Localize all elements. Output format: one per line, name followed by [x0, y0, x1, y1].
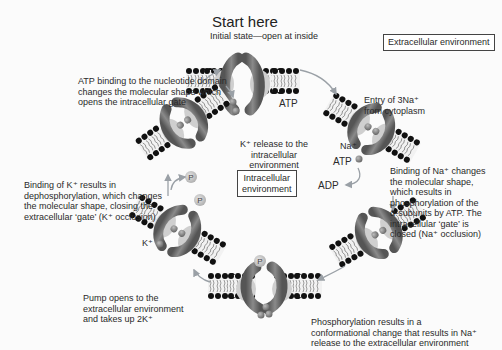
- svg-text:P: P: [188, 173, 193, 182]
- pump-bottom-open-outside: P: [208, 255, 322, 309]
- step-atp-binding: ATP binding to the nucleotide domainchan…: [78, 55, 227, 118]
- adp-label: ADP: [318, 181, 339, 192]
- step-na-entry: Entry of 3Na⁺from cytoplasm: [364, 74, 425, 127]
- title-start-here: Start here: [212, 14, 278, 30]
- step-k-release: K⁺ release to theintracellularenvironmen…: [240, 118, 308, 181]
- na-ion-label: Na⁺: [340, 141, 357, 152]
- atp-label-right: ATP: [333, 157, 352, 168]
- extracellular-environment-label: Extracellular environment: [383, 34, 495, 51]
- step-phosphorylation: Phosphorylation results in aconformation…: [311, 296, 477, 350]
- subtitle-initial-state: Initial state—open at inside: [210, 31, 318, 41]
- step-na-binding: Binding of Na⁺ changesthe molecular shap…: [390, 145, 486, 250]
- k-ion-label: K⁺: [142, 238, 153, 249]
- step-pump-opens: Pump opens to theextracellular environme…: [83, 272, 184, 335]
- svg-text:P: P: [257, 257, 262, 266]
- svg-text:P: P: [197, 196, 202, 205]
- atp-label-top: ATP: [279, 99, 298, 110]
- step-k-binding: Binding of K⁺ results indephosphorylatio…: [24, 159, 162, 233]
